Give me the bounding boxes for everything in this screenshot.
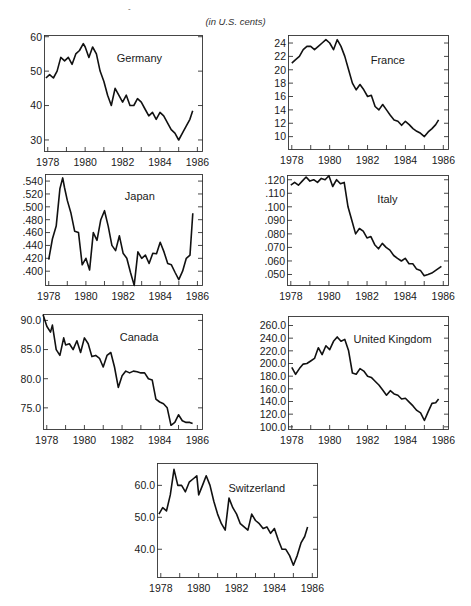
x-tick-label: 1986 (432, 154, 456, 166)
x-tick-label: 1982 (355, 290, 379, 302)
x-tick-label: 1978 (36, 156, 60, 168)
y-tick-label: .460 (23, 226, 44, 238)
x-tick-label: 1986 (186, 290, 210, 302)
y-tick-label: 12 (274, 117, 286, 129)
chart-title: Japan (125, 190, 155, 202)
x-tick-label: 1980 (318, 434, 342, 446)
y-tick-label: 16 (274, 90, 286, 102)
y-tick-label: 30 (30, 134, 42, 146)
x-tick-label: 1978 (280, 154, 304, 166)
y-tick-label: .420 (23, 252, 44, 264)
y-tick-label: .090 (265, 214, 286, 226)
chart-title: Switzerland (228, 482, 285, 494)
y-tick-label: 220.0 (260, 345, 286, 357)
y-tick-label: 20 (274, 64, 286, 76)
chart-canada: 75.080.085.090.019781980198219841986Cana… (43, 314, 203, 430)
y-tick-label: 240.0 (260, 332, 286, 344)
y-tick-label: 160.0 (260, 383, 286, 395)
figure-subtitle: (in U.S. cents) (0, 16, 471, 27)
x-tick-label: 1982 (111, 290, 135, 302)
x-tick-label: 1982 (225, 582, 249, 594)
y-tick-label: .070 (265, 241, 286, 253)
x-tick-label: 1978 (37, 290, 61, 302)
chart-title: Germany (117, 52, 163, 64)
y-tick-label: .520 (23, 188, 44, 200)
y-tick-label: 18 (274, 77, 286, 89)
y-tick-label: 40 (30, 99, 42, 111)
x-tick-label: 1978 (35, 434, 59, 446)
y-tick-label: .120 (265, 174, 286, 186)
x-tick-label: 1986 (301, 582, 325, 594)
y-tick-label: .400 (23, 265, 44, 277)
plot-frame (158, 464, 318, 578)
plot-frame (289, 36, 449, 150)
y-tick-label: 50.0 (135, 511, 156, 523)
x-tick-label: 1978 (280, 434, 304, 446)
x-tick-label: 1984 (394, 154, 418, 166)
chart-switzerland: 40.050.060.019781980198219841986Switzerl… (157, 463, 318, 578)
y-tick-label: .060 (265, 255, 286, 267)
x-tick-label: 1982 (356, 154, 380, 166)
y-tick-label: 22 (274, 50, 286, 62)
y-tick-label: 80.0 (21, 373, 42, 385)
series-line (292, 40, 439, 137)
chart-italy: .050.060.070.080.090.100.110.12019781980… (287, 175, 449, 286)
y-tick-label: 10 (274, 130, 286, 142)
y-tick-label: .050 (265, 268, 286, 280)
scan-artifact-mark: - (128, 4, 131, 13)
y-tick-label: 120.0 (260, 408, 286, 420)
x-tick-label: 1980 (73, 156, 97, 168)
y-tick-label: .500 (23, 201, 44, 213)
x-tick-label: 1984 (394, 434, 418, 446)
chart-title: United Kingdom (354, 333, 432, 345)
y-tick-label: 50 (30, 65, 42, 77)
x-tick-label: 1984 (149, 290, 173, 302)
y-tick-label: .110 (265, 187, 285, 199)
x-tick-label: 1986 (186, 156, 210, 168)
y-tick-label: 90.0 (21, 314, 42, 326)
y-tick-label: 75.0 (21, 402, 42, 414)
x-tick-label: 1980 (74, 290, 98, 302)
y-tick-label: 60 (30, 31, 42, 43)
series-line (49, 178, 193, 286)
chart-title: Canada (120, 331, 159, 343)
y-tick-label: 140.0 (260, 395, 286, 407)
series-line (43, 315, 193, 426)
y-tick-label: 85.0 (21, 343, 42, 355)
plot-frame (288, 176, 449, 286)
x-tick-label: 1984 (393, 290, 417, 302)
y-tick-label: .440 (23, 239, 44, 251)
y-tick-label: .480 (23, 214, 44, 226)
x-tick-label: 1982 (111, 156, 135, 168)
y-tick-label: .100 (265, 201, 286, 213)
series-line (292, 337, 439, 421)
y-tick-label: 180.0 (260, 370, 286, 382)
y-tick-label: 60.0 (135, 479, 156, 491)
x-tick-label: 1978 (149, 582, 173, 594)
y-tick-label: 40.0 (135, 543, 156, 555)
chart-japan: .400.420.440.460.480.500.520.54019781980… (45, 174, 203, 286)
y-tick-label: 100.0 (260, 421, 286, 433)
x-tick-label: 1980 (318, 154, 342, 166)
chart-title: Italy (377, 193, 398, 205)
x-tick-label: 1986 (432, 290, 456, 302)
y-tick-label: .080 (265, 228, 286, 240)
y-tick-label: 14 (274, 104, 286, 116)
x-tick-label: 1982 (356, 434, 380, 446)
x-tick-label: 1980 (187, 582, 211, 594)
y-tick-label: 260.0 (260, 319, 286, 331)
y-tick-label: 24 (274, 37, 286, 49)
x-tick-label: 1982 (110, 434, 134, 446)
chart-united-kingdom: 100.0120.0140.0160.0180.0200.0220.0240.0… (288, 316, 449, 430)
x-tick-label: 1984 (148, 156, 172, 168)
x-tick-label: 1984 (148, 434, 172, 446)
x-tick-label: 1986 (186, 434, 210, 446)
x-tick-label: 1978 (279, 290, 303, 302)
x-tick-label: 1986 (432, 434, 456, 446)
chart-france: 101214161820222419781980198219841986Fran… (288, 35, 449, 150)
x-tick-label: 1984 (263, 582, 287, 594)
chart-title: France (371, 54, 405, 66)
x-tick-label: 1980 (73, 434, 97, 446)
y-tick-label: .540 (23, 175, 44, 187)
chart-germany: 3040506019781980198219841986Germany (44, 35, 203, 152)
